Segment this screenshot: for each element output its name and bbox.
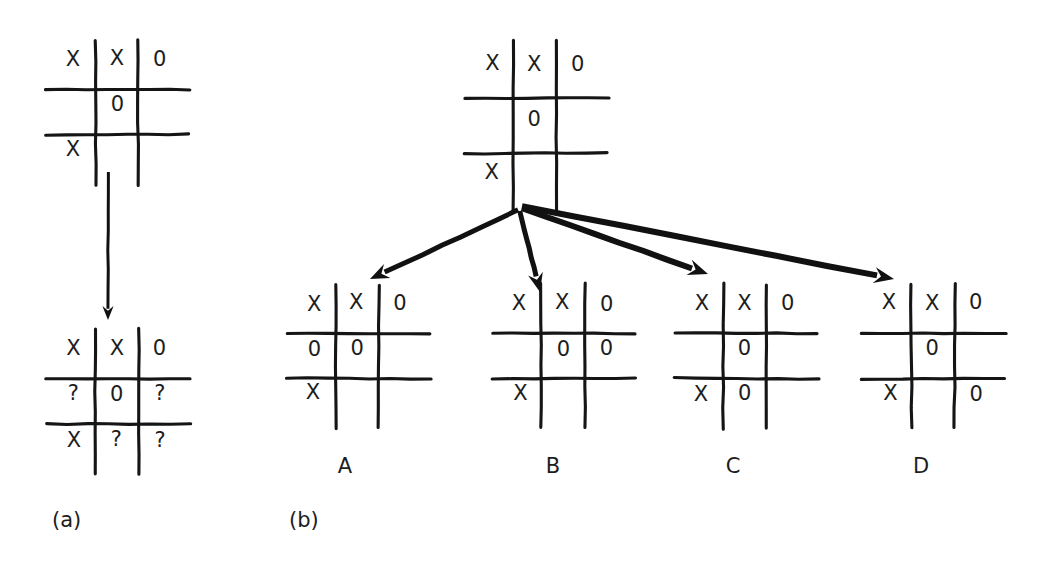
board-cell-mark-o: 0 [111,92,124,116]
board-grid-line-vertical [95,329,96,474]
arrow-shaft [520,211,536,276]
board-cell-mark-x: X [110,336,124,360]
arrow-shaft [522,206,877,275]
board-cell-mark-x: X [694,382,708,406]
panel-b-option-board-d: XX00X0 [861,283,1006,427]
boards-layer: XX00XXX0?0?X??XX00XXX000XXX000XXX00X0XX0… [45,40,1006,475]
board-cell-mark-x: X [555,290,569,314]
option-label-a: A [338,454,353,478]
board-cell-mark-x: X [349,290,363,314]
board-grid-line-horizontal [47,424,191,425]
board-grid-line-horizontal [674,378,819,380]
board-grid-line-horizontal [861,333,1006,334]
board-cell-mark-o: 0 [110,382,123,406]
panel-label-a: (a) [52,508,81,532]
board-cell-mark-unknown: ? [68,381,79,405]
board-cell-mark-o: 0 [738,381,751,405]
arrow-shaft [385,210,518,272]
board-grid-line-vertical [911,284,912,427]
panel-b-root-board: XX00X [464,40,609,211]
board-cell-mark-o: 0 [528,107,541,131]
panel-b-option-board-b: XX000X [492,283,635,428]
board-grid-line-horizontal [287,333,430,334]
board-cell-mark-o: 0 [738,336,751,360]
board-grid-line-horizontal [465,98,609,99]
board-grid-line-horizontal [286,378,431,379]
board-cell-mark-o: 0 [600,336,613,360]
board-cell-mark-unknown: ? [111,427,122,451]
option-label-d: D [913,454,929,478]
board-grid-line-vertical [335,285,336,429]
board-cell-mark-x: X [695,291,709,315]
board-cell-mark-unknown: ? [155,428,166,452]
board-grid-line-vertical [95,41,96,186]
panel-b-arrow-to-c [522,208,708,275]
labels-layer: ABCD(a)(b) [52,454,929,532]
board-cell-mark-x: X [512,291,526,315]
arrows-layer [102,172,894,320]
panel-b-arrow-to-d [522,206,894,283]
board-grid-line-horizontal [861,378,1004,379]
option-label-b: B [546,454,560,478]
board-cell-mark-x: X [882,290,896,314]
board-cell-mark-x: X [527,52,541,76]
panel-label-b: (b) [289,508,319,532]
board-grid-line-horizontal [464,153,607,154]
board-cell-mark-x: X [485,51,499,75]
board-grid-line-vertical [139,328,140,474]
panel-b-arrow-to-a [370,210,518,279]
panel-a-current-board: XX00X [45,40,189,186]
board-cell-mark-x: X [66,47,80,71]
board-grid-line-vertical [556,40,557,211]
panel-b-option-board-c: XX00X0 [674,283,819,429]
board-grid-line-vertical [541,283,542,427]
board-cell-mark-o: 0 [308,337,321,361]
board-cell-mark-x: X [306,380,320,404]
board-cell-mark-x: X [66,137,80,161]
board-grid-line-horizontal [46,134,189,135]
board-cell-mark-o: 0 [153,47,166,71]
board-grid-line-vertical [378,285,379,427]
board-cell-mark-o: 0 [393,291,406,315]
board-grid-line-vertical [585,283,586,428]
board-cell-mark-x: X [883,381,897,405]
board-cell-mark-x: X [485,160,499,184]
tictactoe-figure-svg: XX00XXX0?0?X??XX00XXX000XXX000XXX00X0XX0… [0,0,1044,574]
board-grid-line-horizontal [493,333,635,334]
board-cell-mark-x: X [110,46,124,70]
board-cell-mark-o: 0 [781,291,794,315]
board-grid-line-vertical [723,283,724,429]
board-cell-mark-x: X [307,292,321,316]
board-cell-mark-o: 0 [969,382,982,406]
board-cell-mark-o: 0 [925,336,938,360]
board-grid-line-vertical [138,40,139,186]
board-cell-mark-x: X [925,291,939,315]
option-label-c: C [726,454,741,478]
board-cell-mark-o: 0 [969,290,982,314]
board-cell-mark-x: X [737,291,751,315]
arrow-shaft [522,208,692,268]
board-grid-line-horizontal [45,89,189,90]
arrow-shaft [108,172,109,309]
board-cell-mark-x: X [66,336,80,360]
board-cell-mark-unknown: ? [154,381,165,405]
board-cell-mark-o: 0 [557,337,570,361]
board-cell-mark-o: 0 [571,52,584,76]
panel-a-successor-board: XX0?0?X?? [46,328,191,474]
board-cell-mark-x: X [513,381,527,405]
figure-root: XX00XXX0?0?X??XX00XXX000XXX000XXX00X0XX0… [0,0,1044,574]
board-grid-line-vertical [954,283,955,427]
board-cell-mark-x: X [67,428,81,452]
board-cell-mark-o: 0 [600,292,613,316]
panel-b-option-board-a: XX000X [286,285,431,429]
board-grid-line-horizontal [675,333,817,334]
panel-a-transition-arrow [102,172,113,320]
panel-b-arrow-to-b [520,211,543,292]
board-grid-line-horizontal [492,378,635,379]
board-cell-mark-o: 0 [351,336,364,360]
board-grid-line-vertical [513,40,514,211]
board-cell-mark-o: 0 [153,336,166,360]
